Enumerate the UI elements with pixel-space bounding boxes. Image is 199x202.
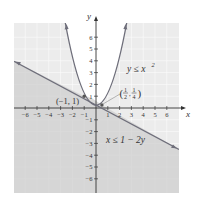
svg-text:(: ( bbox=[120, 87, 124, 100]
svg-text:4: 4 bbox=[133, 94, 136, 100]
point-neg1-1 bbox=[83, 95, 86, 98]
svg-text:1: 1 bbox=[89, 93, 92, 100]
svg-text:5: 5 bbox=[153, 111, 156, 118]
svg-text:2: 2 bbox=[118, 111, 121, 118]
svg-text:−4: −4 bbox=[86, 152, 94, 159]
svg-text:−5: −5 bbox=[86, 163, 93, 170]
svg-text:−2: −2 bbox=[69, 111, 76, 118]
line-inequality-label: x ≤ 1 − 2y bbox=[105, 135, 146, 145]
svg-text:−4: −4 bbox=[45, 111, 53, 118]
parabola-inequality-label: y ≤ x bbox=[126, 64, 146, 74]
point-label-neg1-1: (−1, 1) bbox=[56, 96, 79, 106]
x-axis-label: x bbox=[185, 109, 190, 119]
svg-text:2: 2 bbox=[124, 94, 127, 100]
svg-text:−3: −3 bbox=[57, 111, 64, 118]
y-axis-arrow-icon bbox=[94, 16, 98, 21]
svg-text:−6: −6 bbox=[22, 111, 30, 118]
svg-text:5: 5 bbox=[89, 45, 92, 52]
svg-text:1: 1 bbox=[124, 87, 127, 93]
svg-text:−2: −2 bbox=[86, 128, 93, 135]
svg-text:): ) bbox=[138, 87, 142, 100]
svg-text:1: 1 bbox=[133, 87, 136, 93]
svg-text:−1: −1 bbox=[86, 116, 93, 123]
svg-text:1: 1 bbox=[106, 111, 109, 118]
svg-text:−6: −6 bbox=[86, 175, 94, 182]
graph: −6 −5 −4 −3 −2 −1 1 2 3 4 5 6 6 5 4 3 2 … bbox=[0, 0, 199, 202]
y-axis-label: y bbox=[86, 11, 91, 21]
svg-text:,: , bbox=[129, 90, 131, 98]
svg-text:−5: −5 bbox=[34, 111, 41, 118]
svg-text:2: 2 bbox=[89, 81, 92, 88]
svg-text:3: 3 bbox=[130, 111, 133, 118]
svg-text:3: 3 bbox=[89, 69, 92, 76]
svg-text:−3: −3 bbox=[86, 140, 93, 147]
